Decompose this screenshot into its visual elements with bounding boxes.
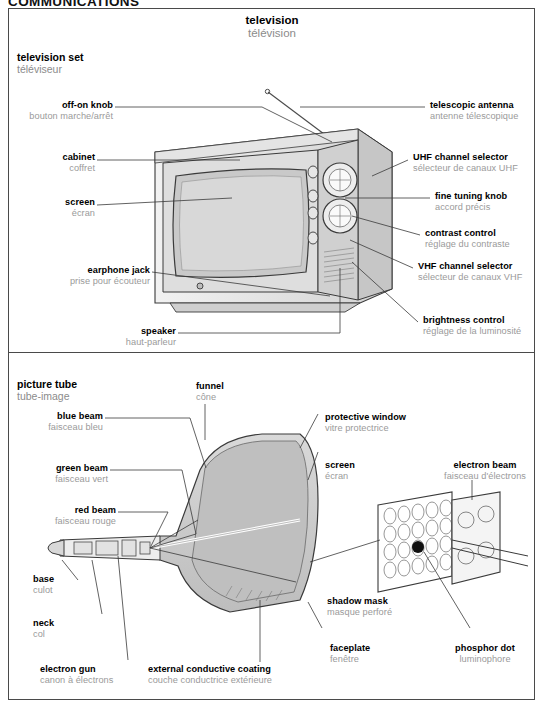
label-red-beam: red beam faisceau rouge: [0, 505, 116, 526]
faceplate-graphic: [452, 492, 500, 584]
leader-shadow-mask: [310, 540, 380, 562]
label-fr: vitre protectrice: [325, 423, 406, 434]
label-en: UHF channel selector: [413, 152, 518, 163]
label-fr: faisceau vert: [0, 474, 108, 485]
leader-electron-gun: [118, 556, 128, 660]
vhf-channel-selector-graphic: [323, 199, 357, 233]
screen-inner: [180, 176, 304, 271]
label-en: telescopic antenna: [430, 100, 518, 111]
label-en: phosphor dot: [430, 643, 540, 654]
label-fr: faisceau bleu: [0, 422, 103, 433]
illustration-page: COMMUNICATIONS television télévision tel…: [0, 0, 543, 707]
label-en: contrast control: [425, 228, 510, 239]
tv-base: [170, 303, 360, 312]
label-en: electron beam: [430, 460, 540, 471]
label-fr: antenne télescopique: [430, 111, 518, 122]
label-fr: masque perforé: [327, 607, 392, 618]
earphone-jack-graphic: [197, 283, 203, 289]
label-en: screen: [0, 197, 95, 208]
label-fr: coffret: [0, 163, 95, 174]
leader-neck: [92, 560, 102, 614]
label-shadow-mask: shadow mask masque perforé: [327, 596, 392, 617]
label-fr: réglage du contraste: [425, 239, 510, 250]
label-base: base culot: [33, 574, 54, 595]
label-fr: culot: [33, 585, 54, 596]
off-on-knob-graphic: [308, 166, 318, 178]
label-fr: faisceau d'électrons: [430, 471, 540, 482]
tv-set-graphic: [97, 89, 430, 333]
label-en: external conductive coating: [148, 664, 272, 675]
label-en: screen: [325, 460, 355, 471]
label-cabinet: cabinet coffret: [0, 152, 95, 173]
label-fr: fenêtre: [330, 654, 370, 665]
label-vhf-channel-selector: VHF channel selector sélecteur de canaux…: [418, 261, 522, 282]
label-screen: screen écran: [0, 197, 95, 218]
label-en: speaker: [0, 326, 176, 337]
label-fr: cône: [196, 392, 224, 403]
leader-blue-beam: [105, 418, 206, 468]
label-phosphor-dot: phosphor dot luminophore: [430, 643, 540, 664]
label-blue-beam: blue beam faisceau bleu: [0, 411, 103, 432]
label-en: protective window: [325, 412, 406, 423]
fine-tuning-knob-graphic: [308, 190, 318, 202]
label-green-beam: green beam faisceau vert: [0, 463, 108, 484]
label-tube-screen: screen écran: [325, 460, 355, 481]
label-fr: luminophore: [430, 654, 540, 665]
label-electron-gun: electron gun canon à électrons: [40, 664, 113, 685]
label-fine-tuning-knob: fine tuning knob accord précis: [435, 191, 507, 212]
label-fr: écran: [325, 471, 355, 482]
label-brightness-control: brightness control réglage de la luminos…: [423, 315, 521, 336]
label-en: base: [33, 574, 54, 585]
label-earphone-jack: earphone jack prise pour écouteur: [0, 265, 150, 286]
label-funnel: funnel cône: [196, 381, 224, 402]
label-off-on-knob: off-on knob bouton marche/arrêt: [0, 100, 113, 121]
telescopic-antenna-graphic: [265, 89, 332, 140]
phosphor-dot-graphic: [412, 541, 424, 553]
label-en: shadow mask: [327, 596, 392, 607]
label-en: red beam: [0, 505, 116, 516]
leader-protective-window: [300, 414, 318, 448]
label-fr: prise pour écouteur: [0, 276, 150, 287]
label-uhf-channel-selector: UHF channel selector sélecteur de canaux…: [413, 152, 518, 173]
leader-faceplate: [308, 602, 322, 628]
label-fr: couche conductrice extérieure: [148, 675, 272, 686]
label-en: green beam: [0, 463, 108, 474]
label-fr: accord précis: [435, 202, 507, 213]
brightness-control-graphic: [308, 232, 318, 244]
label-fr: faisceau rouge: [0, 516, 116, 527]
label-fr: écran: [0, 208, 95, 219]
label-electron-beam: electron beam faisceau d'électrons: [430, 460, 540, 481]
shadow-mask-graphic: [378, 492, 452, 592]
label-en: earphone jack: [0, 265, 150, 276]
label-fr: sélecteur de canaux UHF: [413, 163, 518, 174]
label-en: funnel: [196, 381, 224, 392]
label-fr: bouton marche/arrêt: [0, 111, 113, 122]
label-en: faceplate: [330, 643, 370, 654]
label-en: electron gun: [40, 664, 113, 675]
label-faceplate: faceplate fenêtre: [330, 643, 370, 664]
label-en: blue beam: [0, 411, 103, 422]
label-en: VHF channel selector: [418, 261, 522, 272]
label-en: fine tuning knob: [435, 191, 507, 202]
label-fr: haut-parleur: [0, 337, 176, 348]
leader-base: [62, 560, 78, 580]
label-external-conductive-coating: external conductive coating couche condu…: [148, 664, 272, 685]
label-en: brightness control: [423, 315, 521, 326]
uhf-channel-selector-graphic: [323, 163, 357, 197]
label-speaker: speaker haut-parleur: [0, 326, 176, 347]
label-fr: col: [33, 629, 54, 640]
label-protective-window: protective window vitre protectrice: [325, 412, 406, 433]
picture-tube-graphic: [48, 404, 528, 662]
label-telescopic-antenna: telescopic antenna antenne télescopique: [430, 100, 518, 121]
contrast-control-graphic: [308, 207, 318, 219]
cabinet-side: [358, 129, 392, 300]
label-en: off-on knob: [0, 100, 113, 111]
base-graphic: [48, 540, 64, 556]
label-en: cabinet: [0, 152, 95, 163]
label-contrast-control: contrast control réglage du contraste: [425, 228, 510, 249]
label-fr: canon à électrons: [40, 675, 113, 686]
label-en: neck: [33, 618, 54, 629]
label-neck: neck col: [33, 618, 54, 639]
label-fr: réglage de la luminosité: [423, 326, 521, 337]
label-fr: sélecteur de canaux VHF: [418, 272, 522, 283]
